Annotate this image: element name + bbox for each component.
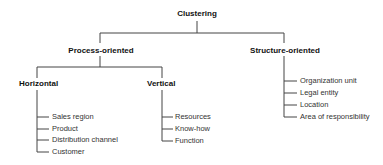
leaf-customer: Customer	[52, 147, 85, 157]
leaf-organization-unit: Organization unit	[300, 76, 357, 86]
root-node: Clustering	[177, 9, 217, 19]
leaf-distribution-channel: Distribution channel	[52, 135, 118, 145]
leaf-function: Function	[175, 136, 204, 146]
structure-oriented-node: Structure-oriented	[250, 46, 320, 56]
leaf-resources: Resources	[175, 112, 211, 122]
leaf-area-of-responsibility: Area of responsibility	[300, 112, 370, 122]
leaf-location: Location	[300, 100, 328, 110]
clustering-tree-diagram: Clustering Process-oriented Structure-or…	[0, 0, 383, 165]
leaf-know-how: Know-how	[175, 124, 210, 134]
horizontal-node: Horizontal	[19, 79, 58, 89]
leaf-legal-entity: Legal entity	[300, 88, 338, 98]
leaf-product: Product	[52, 124, 78, 134]
vertical-node: Vertical	[147, 79, 175, 89]
process-oriented-node: Process-oriented	[68, 46, 133, 56]
leaf-sales-region: Sales region	[52, 112, 94, 122]
